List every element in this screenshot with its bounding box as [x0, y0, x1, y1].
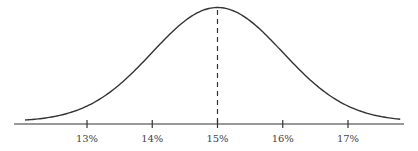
- x-tick-label: 15%: [206, 133, 228, 144]
- bell-curve: [25, 8, 400, 121]
- normal-distribution-chart: 13%14%15%16%17%: [0, 0, 418, 151]
- x-tick-label: 16%: [272, 133, 294, 144]
- x-tick-label: 14%: [141, 133, 163, 144]
- x-tick-label: 17%: [337, 133, 359, 144]
- x-tick-label: 13%: [76, 133, 98, 144]
